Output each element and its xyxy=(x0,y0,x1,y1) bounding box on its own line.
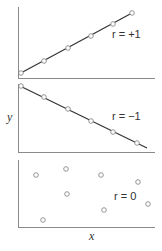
data-point xyxy=(130,11,135,16)
correlation-label: r = −1 xyxy=(112,110,141,122)
x-axis-label: x xyxy=(88,229,95,243)
data-point xyxy=(66,46,71,51)
panel-positive-correlation: r = +1 xyxy=(18,7,155,79)
panel-negative-correlation: r = −1 y xyxy=(6,84,155,153)
data-point xyxy=(89,34,94,39)
correlation-label: r = +1 xyxy=(112,28,141,40)
y-axis-label: y xyxy=(6,110,13,124)
data-point xyxy=(136,180,141,185)
data-point xyxy=(64,167,69,172)
data-point xyxy=(99,173,104,178)
data-point xyxy=(135,141,140,146)
data-point xyxy=(111,22,116,27)
data-point xyxy=(41,218,46,223)
fit-line xyxy=(19,13,132,74)
data-point xyxy=(34,173,39,178)
data-point xyxy=(111,130,116,135)
data-point xyxy=(89,119,94,124)
data-point xyxy=(102,208,107,213)
panel-no-correlation: r = 0 x xyxy=(18,160,155,243)
data-point xyxy=(66,107,71,112)
data-point xyxy=(146,202,151,207)
data-point xyxy=(19,84,24,89)
data-point xyxy=(65,192,70,197)
data-point xyxy=(19,71,24,76)
data-point xyxy=(42,59,47,64)
data-point xyxy=(42,95,47,100)
correlation-figure: r = +1 r = −1 y r = 0 x xyxy=(0,0,162,251)
correlation-label: r = 0 xyxy=(114,190,136,202)
